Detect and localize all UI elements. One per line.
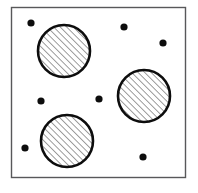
dot-6 [21, 144, 28, 151]
dot-7 [139, 153, 146, 160]
diagram-canvas: Schematic of circular inclusions in a re… [0, 0, 198, 193]
dot-4 [37, 97, 44, 104]
figure-container: Schematic of circular inclusions in a re… [0, 0, 198, 193]
circle-top-left [38, 25, 90, 77]
circle-right [118, 70, 170, 122]
dot-5 [95, 95, 102, 102]
dot-3 [159, 39, 166, 46]
dot-1 [27, 19, 34, 26]
circle-bottom-left [41, 115, 93, 167]
dot-2 [120, 23, 127, 30]
